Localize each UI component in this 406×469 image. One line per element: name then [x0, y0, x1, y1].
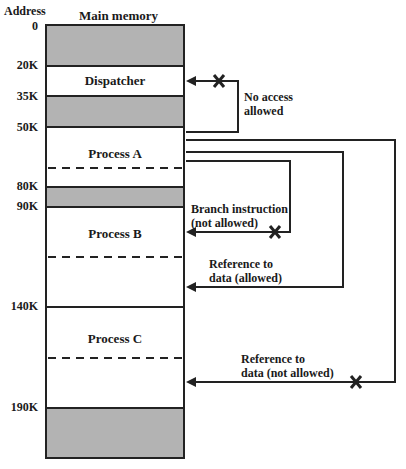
diagram-lines — [0, 0, 406, 469]
arrow-label-branch: (not allowed) — [191, 216, 258, 230]
arrow-label-data-allowed: data (allowed) — [209, 271, 282, 285]
arrow-label-data-allowed: Reference to — [209, 257, 273, 271]
arrow-label-data-not-allowed: data (not allowed) — [241, 366, 334, 380]
arrow-label-data-not-allowed: Reference to — [241, 352, 305, 366]
arrow-label-branch: Branch instruction — [191, 202, 288, 216]
arrow-label-no-access: No access — [244, 90, 293, 104]
arrow-label-no-access: allowed — [244, 104, 283, 118]
